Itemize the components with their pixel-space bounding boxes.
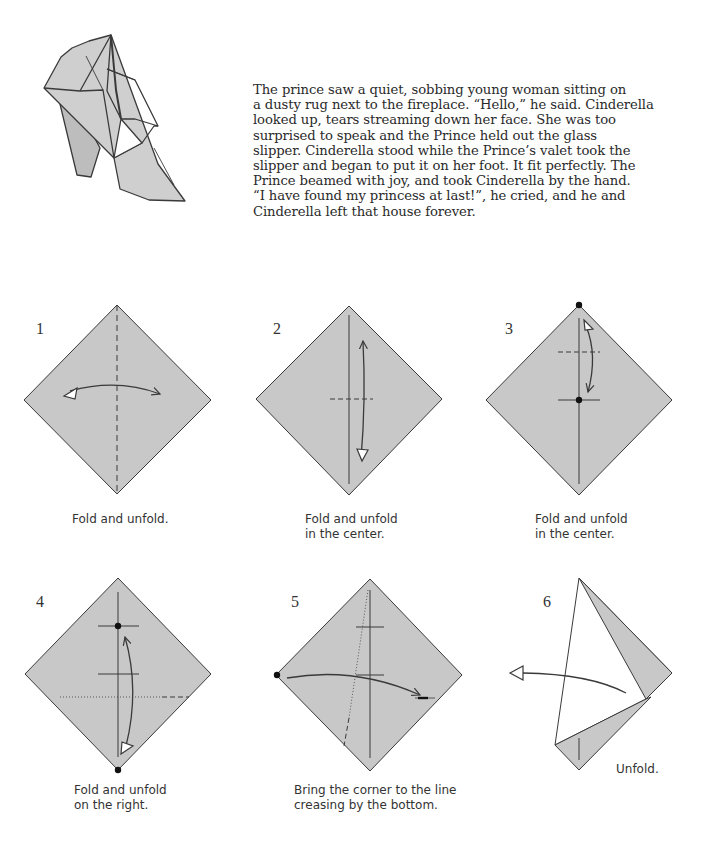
step-2-caption: Fold and unfold in the center. [305, 512, 398, 542]
reference-dot [115, 767, 121, 773]
step-4-diagram: 4 [25, 578, 211, 773]
reference-dot [576, 302, 582, 308]
step-3-caption: Fold and unfold in the center. [535, 512, 628, 542]
reference-dot [274, 672, 280, 678]
step-6-diagram: 6 [510, 578, 672, 770]
diagram-canvas: 1 2 3 4 [0, 0, 707, 842]
step-number: 5 [291, 593, 299, 610]
step-3-diagram: 3 [486, 302, 672, 495]
step-number: 4 [36, 593, 44, 610]
step-4-caption: Fold and unfold on the right. [74, 783, 167, 813]
step-number: 6 [543, 593, 551, 610]
step-number: 2 [273, 320, 281, 337]
step-1-diagram: 1 [24, 305, 211, 494]
step-number: 1 [36, 320, 44, 337]
step-number: 3 [505, 320, 513, 337]
step-1-caption: Fold and unfold. [72, 512, 169, 527]
step-5-diagram: 5 [274, 579, 462, 771]
reference-dot [576, 397, 582, 403]
step-5-caption: Bring the corner to the line creasing by… [294, 783, 456, 813]
finished-slipper-illustration [44, 35, 185, 201]
step-6-caption: Unfold. [616, 762, 659, 777]
reference-dot [115, 623, 121, 629]
arrow-left-head-icon [510, 666, 523, 680]
step-2-diagram: 2 [256, 306, 442, 495]
